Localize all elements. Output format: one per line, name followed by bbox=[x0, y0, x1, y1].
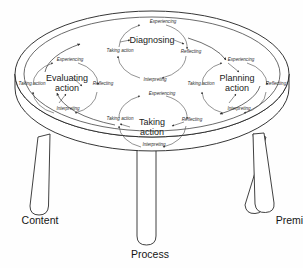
label-content: Content bbox=[22, 214, 59, 226]
taking-stage-experiencing: Experiencing bbox=[149, 91, 176, 96]
diagnosing-stage-interpreting: Interpreting bbox=[143, 77, 167, 82]
cycle-evaluating-label-line1: Evaluating bbox=[46, 73, 88, 83]
leg-process bbox=[137, 143, 156, 245]
evaluating-stage-taking-action: Taking action bbox=[19, 81, 46, 86]
planning-stage-experiencing: Experiencing bbox=[228, 57, 255, 62]
label-process: Process bbox=[131, 248, 169, 260]
leg-labels: Content Process Premise bbox=[22, 214, 303, 260]
evaluating-stage-experiencing: Experiencing bbox=[57, 57, 84, 62]
planning-stage-taking-action: Taking action bbox=[188, 81, 215, 86]
cycle-planning-label-line2: action bbox=[225, 83, 249, 93]
diagnosing-stage-taking-action: Taking action bbox=[107, 48, 134, 53]
diagnosing-stage-experiencing: Experiencing bbox=[150, 19, 177, 24]
cycle-diagnosing-label: Diagnosing bbox=[129, 35, 174, 45]
evaluating-stage-reflecting: Reflecting bbox=[93, 81, 114, 86]
planning-stage-interpreting: Interpreting bbox=[227, 106, 251, 111]
evaluating-stage-interpreting: Interpreting bbox=[56, 106, 80, 111]
taking-stage-interpreting: Interpreting bbox=[142, 142, 166, 147]
taking-stage-reflecting: Reflecting bbox=[182, 117, 203, 122]
cycle-taking-label-line1: Taking bbox=[139, 117, 165, 127]
stool-diagram: Diagnosing Experiencing Reflecting Inter… bbox=[0, 0, 303, 268]
planning-stage-reflecting: Reflecting bbox=[266, 81, 287, 86]
leg-content bbox=[30, 134, 50, 215]
cycle-taking-label-line2: action bbox=[140, 127, 164, 137]
taking-stage-taking-action: Taking action bbox=[107, 116, 134, 121]
leg-premise-body bbox=[253, 133, 274, 213]
cycle-evaluating-label-line2: action bbox=[55, 83, 79, 93]
cycle-planning-label-line1: Planning bbox=[219, 73, 254, 83]
diagram-canvas: Diagnosing Experiencing Reflecting Inter… bbox=[0, 0, 303, 268]
diagnosing-stage-reflecting: Reflecting bbox=[181, 49, 202, 54]
label-premise: Premise bbox=[276, 214, 303, 226]
